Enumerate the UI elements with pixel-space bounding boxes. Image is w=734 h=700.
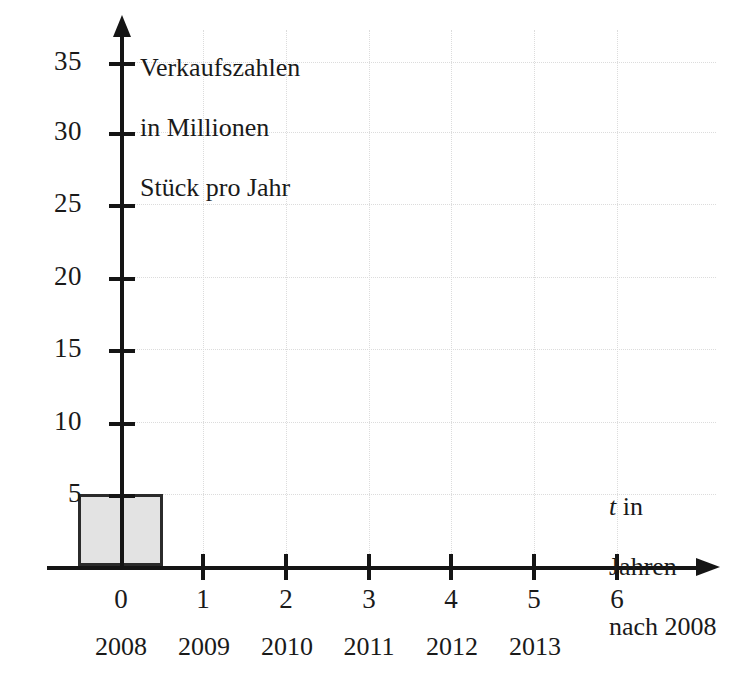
gridline-vertical-5 bbox=[534, 30, 535, 566]
x-tick-1 bbox=[201, 554, 205, 580]
y-axis-title-line-1: Verkaufszahlen bbox=[140, 53, 400, 83]
x-tick-label-4: 4 bbox=[430, 586, 472, 613]
x-tick-2 bbox=[284, 554, 288, 580]
gridline-horizontal-15 bbox=[120, 349, 716, 350]
y-tick-label-25: 25 bbox=[10, 190, 82, 217]
year-label-2011: 2011 bbox=[328, 634, 410, 660]
bar-chart-figure: 35 30 25 20 15 10 5 0 1 2 3 4 5 6 2008 2… bbox=[0, 0, 734, 700]
x-axis-title-line-1: t in bbox=[609, 492, 734, 522]
y-axis-title-line-3: Stück pro Jahr bbox=[140, 173, 400, 203]
x-axis-title-line-2: Jahren bbox=[609, 552, 734, 582]
year-label-2009: 2009 bbox=[163, 634, 245, 660]
y-tick-label-30: 30 bbox=[10, 118, 82, 145]
y-tick-30 bbox=[109, 132, 135, 136]
y-tick-25 bbox=[109, 204, 135, 208]
x-tick-label-3: 3 bbox=[348, 586, 390, 613]
x-axis-title-line-1-rest: in bbox=[616, 492, 643, 521]
x-tick-4 bbox=[449, 554, 453, 580]
year-label-2013: 2013 bbox=[494, 634, 576, 660]
year-label-2012: 2012 bbox=[411, 634, 493, 660]
x-tick-label-1: 1 bbox=[182, 586, 224, 613]
y-tick-15 bbox=[109, 349, 135, 353]
year-label-2010: 2010 bbox=[246, 634, 328, 660]
y-tick-label-20: 20 bbox=[10, 263, 82, 290]
y-tick-20 bbox=[109, 277, 135, 281]
y-tick-35 bbox=[109, 62, 135, 66]
x-tick-label-5: 5 bbox=[513, 586, 555, 613]
gridline-horizontal-20 bbox=[120, 277, 716, 278]
y-axis-title-line-2: in Millionen bbox=[140, 113, 400, 143]
x-axis-title: t in Jahren nach 2008 bbox=[609, 462, 734, 672]
y-tick-5 bbox=[109, 494, 135, 498]
x-tick-5 bbox=[532, 554, 536, 580]
gridline-vertical-4 bbox=[451, 30, 452, 566]
year-label-2008: 2008 bbox=[80, 634, 162, 660]
y-tick-label-5: 5 bbox=[10, 480, 82, 507]
y-tick-10 bbox=[109, 422, 135, 426]
x-axis-title-line-3: nach 2008 bbox=[609, 612, 734, 642]
y-axis-title: Verkaufszahlen in Millionen Stück pro Ja… bbox=[140, 23, 400, 233]
y-axis-arrow-icon bbox=[113, 15, 131, 37]
x-tick-label-0: 0 bbox=[100, 586, 142, 613]
x-tick-label-2: 2 bbox=[265, 586, 307, 613]
gridline-horizontal-10 bbox=[120, 422, 716, 423]
y-tick-label-35: 35 bbox=[10, 48, 82, 75]
x-tick-3 bbox=[367, 554, 371, 580]
y-tick-label-15: 15 bbox=[10, 335, 82, 362]
y-axis-line bbox=[120, 34, 124, 568]
y-tick-label-10: 10 bbox=[10, 408, 82, 435]
x-axis-line bbox=[47, 566, 702, 570]
